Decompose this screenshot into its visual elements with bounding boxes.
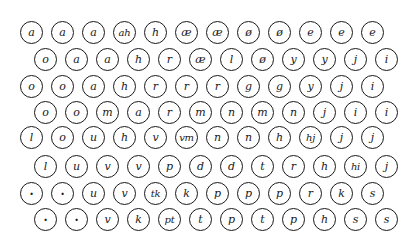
symbol-circle: j bbox=[330, 126, 353, 149]
grid-row-7: ··uvtkkppprks bbox=[0, 182, 420, 208]
grid-row-8: ··vkpttptphss bbox=[0, 208, 420, 234]
symbol-circle: · bbox=[20, 182, 43, 205]
symbol-circle: æ bbox=[206, 21, 229, 44]
symbol-circle: g bbox=[237, 75, 260, 98]
symbol-circle: a bbox=[127, 101, 150, 124]
symbol-circle: · bbox=[51, 182, 74, 205]
symbol-circle: y bbox=[282, 48, 305, 71]
symbol-circle: e bbox=[299, 21, 322, 44]
symbol-circle: a bbox=[51, 21, 74, 44]
symbol-circle: e bbox=[330, 21, 353, 44]
symbol-circle: o bbox=[65, 101, 88, 124]
symbol-circle: a bbox=[82, 21, 105, 44]
symbol-circle: hj bbox=[299, 126, 322, 149]
symbol-circle: r bbox=[175, 75, 198, 98]
symbol-circle: · bbox=[34, 208, 57, 231]
grid-row-2: oaahræløyyji bbox=[0, 48, 420, 74]
symbol-circle: a bbox=[96, 48, 119, 71]
symbol-circle: pt bbox=[158, 208, 181, 231]
symbol-circle: ø bbox=[237, 21, 260, 44]
symbol-circle: n bbox=[237, 126, 260, 149]
symbol-circle: l bbox=[20, 126, 43, 149]
symbol-circle: k bbox=[127, 208, 150, 231]
symbol-circle: tk bbox=[144, 182, 167, 205]
symbol-circle: o bbox=[51, 126, 74, 149]
symbol-circle: · bbox=[65, 208, 88, 231]
symbol-circle: r bbox=[206, 75, 229, 98]
symbol-circle: h bbox=[113, 126, 136, 149]
symbol-circle: p bbox=[158, 155, 181, 178]
symbol-circle: æ bbox=[189, 48, 212, 71]
symbol-circle: r bbox=[282, 155, 305, 178]
symbol-circle: j bbox=[361, 126, 384, 149]
symbol-circle: r bbox=[299, 182, 322, 205]
symbol-circle: d bbox=[220, 155, 243, 178]
symbol-circle: t bbox=[251, 208, 274, 231]
symbol-circle: s bbox=[344, 208, 367, 231]
symbol-circle: r bbox=[158, 48, 181, 71]
symbol-circle: v bbox=[144, 126, 167, 149]
symbol-circle: p bbox=[237, 182, 260, 205]
symbol-circle: n bbox=[220, 101, 243, 124]
symbol-circle: k bbox=[330, 182, 353, 205]
symbol-circle: h bbox=[127, 48, 150, 71]
symbol-circle: s bbox=[375, 208, 398, 231]
grid-row-3: ooahrrrggyji bbox=[0, 75, 420, 101]
symbol-circle: j bbox=[375, 155, 398, 178]
symbol-circle: vm bbox=[175, 126, 198, 149]
symbol-circle: m bbox=[96, 101, 119, 124]
symbol-circle: a bbox=[20, 21, 43, 44]
symbol-circle: i bbox=[361, 75, 384, 98]
symbol-circle: ø bbox=[268, 21, 291, 44]
symbol-circle: n bbox=[282, 101, 305, 124]
symbol-circle: p bbox=[282, 208, 305, 231]
symbol-circle: v bbox=[96, 208, 119, 231]
symbol-circle: v bbox=[127, 155, 150, 178]
symbol-circle: d bbox=[189, 155, 212, 178]
symbol-circle: i bbox=[375, 101, 398, 124]
symbol-circle: h bbox=[144, 21, 167, 44]
symbol-circle: ø bbox=[251, 48, 274, 71]
symbol-circle: a bbox=[65, 48, 88, 71]
symbol-circle: p bbox=[206, 182, 229, 205]
symbol-circle: m bbox=[189, 101, 212, 124]
symbol-circle: o bbox=[51, 75, 74, 98]
symbol-circle: o bbox=[20, 75, 43, 98]
symbol-circle: u bbox=[82, 126, 105, 149]
symbol-circle: r bbox=[144, 75, 167, 98]
symbol-circle: hi bbox=[344, 155, 367, 178]
grid-row-6: luvvpddtrhhij bbox=[0, 155, 420, 181]
symbol-circle: r bbox=[158, 101, 181, 124]
symbol-circle: j bbox=[344, 48, 367, 71]
grid-row-1: aaaahhææøøeee bbox=[0, 21, 420, 47]
symbol-circle: k bbox=[175, 182, 198, 205]
symbol-circle: m bbox=[251, 101, 274, 124]
symbol-circle: l bbox=[34, 155, 57, 178]
symbol-circle: a bbox=[82, 75, 105, 98]
symbol-circle: v bbox=[113, 182, 136, 205]
symbol-circle: o bbox=[34, 101, 57, 124]
symbol-circle: y bbox=[299, 75, 322, 98]
symbol-circle: i bbox=[344, 101, 367, 124]
symbol-circle: t bbox=[251, 155, 274, 178]
symbol-circle: h bbox=[313, 155, 336, 178]
symbol-circle: t bbox=[189, 208, 212, 231]
symbol-circle: s bbox=[361, 182, 384, 205]
symbol-circle: u bbox=[82, 182, 105, 205]
symbol-circle: v bbox=[96, 155, 119, 178]
symbol-circle: o bbox=[34, 48, 57, 71]
grid-row-4: oomarmnmnjii bbox=[0, 101, 420, 127]
symbol-circle: h bbox=[313, 208, 336, 231]
symbol-circle: g bbox=[268, 75, 291, 98]
symbol-circle: ah bbox=[113, 21, 136, 44]
symbol-circle: j bbox=[330, 75, 353, 98]
symbol-circle: n bbox=[206, 126, 229, 149]
symbol-circle: p bbox=[268, 182, 291, 205]
symbol-circle: h bbox=[113, 75, 136, 98]
symbol-circle: æ bbox=[175, 21, 198, 44]
symbol-circle: i bbox=[375, 48, 398, 71]
symbol-circle: e bbox=[361, 21, 384, 44]
symbol-circle: j bbox=[313, 101, 336, 124]
symbol-circle: u bbox=[65, 155, 88, 178]
symbol-circle: h bbox=[268, 126, 291, 149]
